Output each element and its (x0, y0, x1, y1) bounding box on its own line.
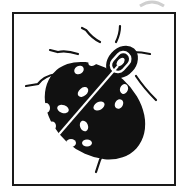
ladybug-icon (0, 0, 181, 196)
